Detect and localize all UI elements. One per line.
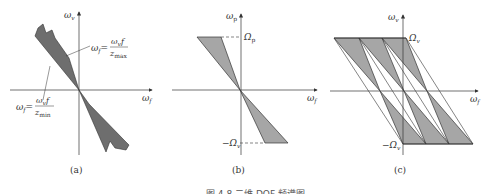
y-axis-label: ωp: [226, 11, 237, 23]
panel-b: ωp Ωp −Ωv ωf (b): [172, 11, 318, 175]
top-limit-label: Ωv: [408, 33, 420, 44]
panel-c: ωv Ωv −Ωv ωf (c): [330, 12, 481, 175]
svg-text:zmin: zmin: [34, 108, 51, 118]
spectrum-lower-lobe: [79, 90, 129, 152]
spectrum-upper-lobe: [35, 24, 79, 90]
panel-a: ωv ωf ωf= ωvf zmax ωf= ωvf zmin (a): [10, 10, 153, 175]
spectrum-upper-triangle: [197, 37, 240, 90]
svg-text:zmax: zmax: [109, 49, 127, 59]
x-axis-label: ωf: [470, 94, 481, 106]
leader-zmax: [66, 46, 90, 56]
panel-label-a: (a): [70, 165, 82, 175]
dof-spectrum-figure: ωv ωf ωf= ωvf zmax ωf= ωvf zmin (a) ωp Ω…: [0, 0, 487, 194]
bottom-limit-label: −Ωv: [222, 138, 241, 149]
bottom-limit-label: −Ωv: [382, 140, 401, 151]
y-axis-label: ωv: [64, 10, 75, 21]
spectrum-lower-triangle: [240, 90, 288, 143]
panel-label-b: (b): [232, 165, 245, 175]
y-axis-label: ωv: [388, 12, 399, 23]
annotation-zmax: ωf= ωvf zmax: [91, 37, 128, 59]
figure-caption: 图 4.8 二维 DOF 频谱图: [206, 188, 305, 194]
x-axis-label: ωf: [142, 93, 153, 105]
x-axis-label: ωf: [307, 93, 318, 105]
annotation-zmin: ωf= ωvf zmin: [16, 96, 54, 118]
panel-label-c: (c): [394, 165, 406, 175]
leader-zmin: [43, 66, 50, 100]
svg-text:ωf=: ωf=: [16, 102, 33, 114]
top-limit-label: Ωp: [243, 32, 255, 44]
svg-text:ωvf: ωvf: [111, 37, 126, 47]
svg-text:ωf=: ωf=: [91, 43, 108, 55]
